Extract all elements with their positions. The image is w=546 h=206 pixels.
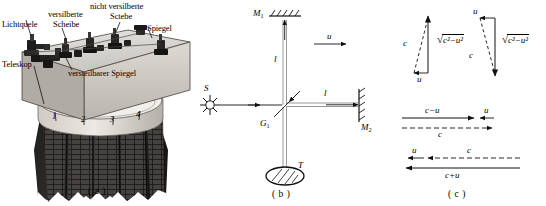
panel-a-caption: ( a ) bbox=[88, 186, 106, 196]
mirror-m2 bbox=[359, 88, 365, 122]
label-telescope-t: T bbox=[298, 160, 303, 170]
label-m2: M2 bbox=[361, 122, 372, 133]
triangle-left bbox=[414, 16, 428, 73]
mirror-m1 bbox=[269, 10, 301, 16]
line-group-bottom bbox=[406, 158, 520, 168]
label-unsilvered-plate-line2: Sctebe bbox=[110, 12, 132, 22]
vector-c-left bbox=[414, 18, 428, 73]
line-group-top bbox=[402, 118, 494, 128]
vector-c-right bbox=[480, 18, 495, 74]
michelson-morley-figure: Lichtquele versilberte Scheibe nicht ver… bbox=[0, 0, 546, 206]
light-source-star bbox=[200, 95, 220, 115]
panel-c-vector-diagrams: c u √c²−u² u c √c²−u² c−u u c u c c+u ( … bbox=[380, 0, 546, 206]
label-c-plus-u: c+u bbox=[445, 170, 460, 180]
label-g1: G1 bbox=[260, 118, 270, 129]
label-arm-vertical: l bbox=[274, 54, 277, 64]
scale-number-1: 1 bbox=[52, 112, 56, 122]
panel-b-schematic: M1 M2 G1 S T l l u ( b ) bbox=[196, 0, 380, 206]
label-c-right: c bbox=[469, 50, 473, 60]
label-u-left: u bbox=[417, 74, 422, 84]
panel-b-caption: ( b ) bbox=[272, 189, 290, 199]
label-mirror: Spiegel bbox=[147, 24, 172, 34]
label-silvered-plate-line2: Scheibe bbox=[53, 20, 79, 30]
lower-arm-beam bbox=[283, 107, 287, 168]
sqrt-expr-left: c²−u² bbox=[442, 34, 464, 45]
label-sqrt-left: √c²−u² bbox=[437, 33, 464, 45]
label-m1: M1 bbox=[253, 8, 264, 19]
arrow-diagonal-splitter bbox=[289, 91, 300, 102]
label-u-top: u bbox=[484, 105, 489, 115]
label-source-s: S bbox=[204, 83, 209, 93]
label-c-left: c bbox=[403, 38, 407, 48]
label-c-minus-u: c−u bbox=[425, 105, 440, 115]
label-u-right: u bbox=[473, 6, 478, 16]
label-c-dashed-bottom: c bbox=[467, 145, 471, 155]
panel-a-apparatus-photo: Lichtquele versilberte Scheibe nicht ver… bbox=[0, 0, 196, 206]
triangle-right bbox=[480, 18, 495, 76]
interferometer-schematic bbox=[196, 0, 380, 206]
label-sqrt-right: √c²−u² bbox=[502, 33, 529, 45]
label-u-bottom: u bbox=[412, 145, 417, 155]
label-telescope: Teleskop bbox=[2, 60, 32, 70]
label-c-dashed-top: c bbox=[438, 129, 442, 139]
sqrt-expr-right: c²−u² bbox=[507, 34, 529, 45]
scale-number-3: 3 bbox=[110, 115, 114, 125]
label-arm-horizontal: l bbox=[324, 88, 327, 98]
scale-number-2: 2 bbox=[81, 115, 85, 125]
vector-diagrams bbox=[380, 0, 546, 206]
scale-number-4: 4 bbox=[136, 110, 140, 120]
label-velocity-u: u bbox=[327, 31, 332, 41]
label-light-source: Lichtquele bbox=[2, 20, 37, 30]
panel-c-caption: ( c ) bbox=[448, 189, 466, 199]
label-adjustable-mirror: versteilbarer Spiegel bbox=[68, 69, 136, 79]
